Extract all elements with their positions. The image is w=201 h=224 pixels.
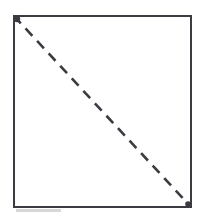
diagonal-start-marker	[14, 16, 20, 22]
diagonal-end-marker	[185, 201, 191, 207]
scan-smudge	[16, 209, 61, 212]
figure-canvas: Rectangle with dashed diagonal A tall re…	[0, 0, 201, 224]
figure-drawing	[0, 0, 201, 224]
